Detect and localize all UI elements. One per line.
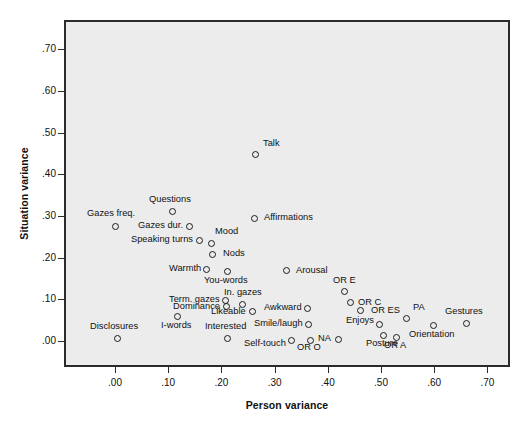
data-point-label: Warmth (169, 263, 201, 273)
y-tick-label: .00 (16, 336, 56, 346)
data-point-label: Gazes dur. (138, 220, 183, 230)
data-point-label: Arousal (296, 265, 328, 275)
y-tick-label: .70 (16, 44, 56, 54)
y-tick-mark (58, 341, 65, 342)
data-point-label: Awkward (264, 302, 302, 312)
data-point-label: Self-touch (244, 338, 286, 348)
x-tick-label: .30 (255, 378, 295, 388)
data-point-marker (304, 305, 311, 312)
data-point-label: Likeable (211, 306, 246, 316)
data-point-marker (208, 240, 215, 247)
data-point-label: Mood (215, 226, 238, 236)
x-tick-label: .20 (201, 378, 241, 388)
x-tick-mark (115, 366, 116, 373)
x-tick-label: .40 (308, 378, 348, 388)
data-point-label: PA (413, 302, 425, 312)
data-point-label: Interested (205, 321, 246, 331)
data-point-label: Orientation (409, 329, 454, 339)
y-tick-label: .10 (16, 294, 56, 304)
data-point-label: Smile/laugh (254, 318, 303, 328)
x-tick-mark (168, 366, 169, 373)
y-tick-mark (58, 299, 65, 300)
data-point-marker (251, 215, 258, 222)
data-point-label: NA (318, 333, 331, 343)
y-tick-label: .60 (16, 86, 56, 96)
data-point-marker (347, 299, 354, 306)
data-point-marker (196, 237, 203, 244)
figure: Situation variance Person variance .00.1… (0, 0, 529, 426)
y-tick-label: .50 (16, 128, 56, 138)
data-point-marker (403, 315, 410, 322)
data-point-marker (112, 223, 119, 230)
y-tick-label: .30 (16, 211, 56, 221)
x-tick-mark (328, 366, 329, 373)
data-point-label: Speaking turns (131, 234, 193, 244)
y-tick-mark (58, 133, 65, 134)
data-point-label: OR A (384, 340, 406, 350)
data-point-label: OR E (333, 275, 356, 285)
data-point-label: You-words (204, 275, 248, 285)
data-point-marker (203, 266, 210, 273)
data-point-label: OR O (297, 342, 321, 352)
y-tick-label: .40 (16, 169, 56, 179)
y-tick-label: .20 (16, 253, 56, 263)
x-tick-label: .70 (467, 378, 507, 388)
data-point-label: Disclosures (90, 321, 138, 331)
data-point-label: Questions (149, 194, 191, 204)
x-tick-label: .10 (148, 378, 188, 388)
x-tick-mark (275, 366, 276, 373)
x-tick-label: .60 (414, 378, 454, 388)
y-tick-mark (58, 258, 65, 259)
y-tick-mark (58, 91, 65, 92)
data-point-marker (463, 320, 470, 327)
x-tick-label: .00 (95, 378, 135, 388)
x-tick-mark (487, 366, 488, 373)
plot-area (64, 20, 510, 367)
data-point-label: Talk (263, 138, 280, 148)
data-point-label: Affirmations (264, 212, 313, 222)
data-point-label: I-words (161, 320, 191, 330)
data-point-label: In. gazes (224, 287, 262, 297)
data-point-marker (335, 336, 342, 343)
data-point-label: Enjoys (346, 315, 374, 325)
data-point-label: Gestures (445, 306, 483, 316)
data-point-marker (288, 337, 295, 344)
x-axis-title: Person variance (64, 399, 510, 411)
y-axis-title: Situation variance (16, 20, 32, 367)
y-tick-mark (58, 216, 65, 217)
data-point-label: Nods (223, 248, 245, 258)
y-tick-mark (58, 49, 65, 50)
x-tick-mark (381, 366, 382, 373)
data-point-label: OR ES (371, 305, 400, 315)
x-tick-mark (434, 366, 435, 373)
data-point-marker (186, 223, 193, 230)
x-tick-mark (221, 366, 222, 373)
data-point-marker (305, 321, 312, 328)
data-point-label: Gazes freq. (87, 208, 135, 218)
x-tick-label: .50 (361, 378, 401, 388)
y-tick-mark (58, 174, 65, 175)
